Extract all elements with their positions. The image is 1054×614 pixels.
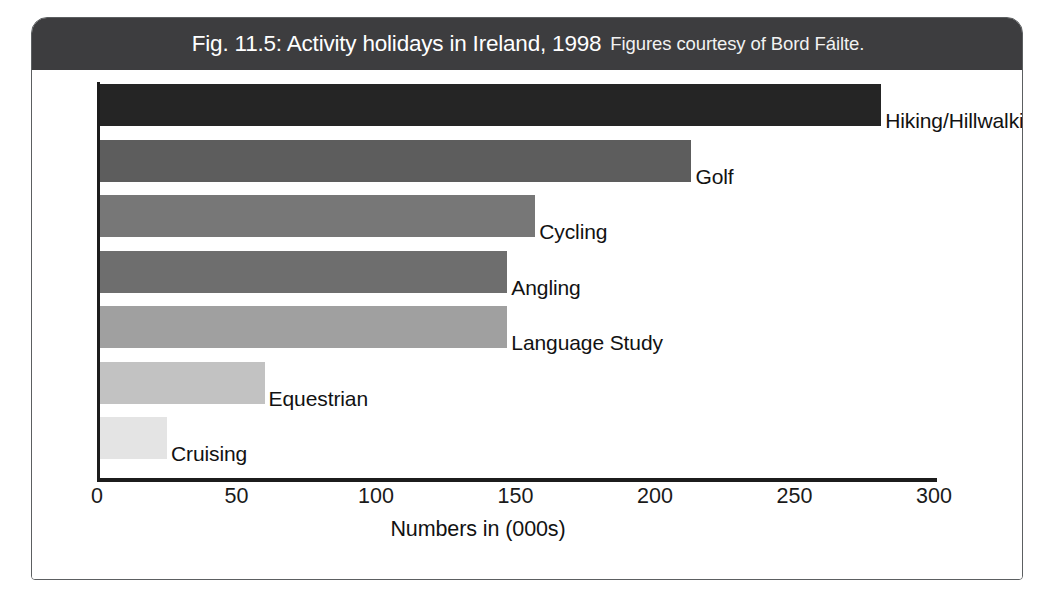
bar-label: Cruising xyxy=(171,442,247,466)
bar xyxy=(100,306,507,348)
bar xyxy=(100,195,535,237)
x-tick-label: 250 xyxy=(777,484,813,509)
bar-label: Cycling xyxy=(539,220,607,244)
bar-label: Language Study xyxy=(511,331,663,355)
bar-label: Equestrian xyxy=(269,387,368,411)
figure-card: Fig. 11.5: Activity holidays in Ireland,… xyxy=(31,17,1023,580)
figure-title: Fig. 11.5: Activity holidays in Ireland,… xyxy=(192,31,602,57)
chart-plot-area: Hiking/HillwalkingGolfCyclingAnglingLang… xyxy=(32,70,1023,579)
bar xyxy=(100,417,167,459)
bar xyxy=(100,251,507,293)
x-tick-label: 150 xyxy=(498,484,534,509)
x-tick-label: 300 xyxy=(916,484,952,509)
figure-title-bar: Fig. 11.5: Activity holidays in Ireland,… xyxy=(32,18,1023,70)
x-axis-line xyxy=(97,478,937,482)
bar-label: Golf xyxy=(695,165,733,189)
x-tick-label: 50 xyxy=(225,484,249,509)
x-tick-label: 100 xyxy=(358,484,394,509)
bar xyxy=(100,84,881,126)
x-tick-label: 200 xyxy=(637,484,673,509)
bar-label: Hiking/Hillwalking xyxy=(885,109,1023,133)
x-axis-title: Numbers in (000s) xyxy=(32,517,1023,542)
bar xyxy=(100,362,265,404)
bar xyxy=(100,140,691,182)
bar-label: Angling xyxy=(511,276,580,300)
x-tick-label: 0 xyxy=(91,484,103,509)
x-axis-title-label: Numbers in (000s) xyxy=(390,517,565,541)
figure-title-credit: Figures courtesy of Bord Fáilte. xyxy=(610,33,864,55)
